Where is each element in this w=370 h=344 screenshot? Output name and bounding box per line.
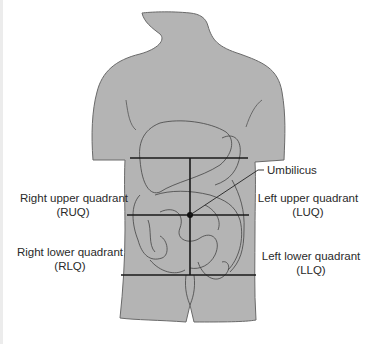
- luq-label: Left upper quadrant (LUQ): [248, 191, 368, 219]
- llq-name: Left lower quadrant: [258, 249, 364, 263]
- quadrant-diagram: Umbilicus Right upper quadrant (RUQ) Lef…: [0, 0, 370, 344]
- luq-name: Left upper quadrant: [248, 191, 368, 205]
- umbilicus-label: Umbilicus: [267, 163, 317, 177]
- ruq-label: Right upper quadrant (RUQ): [20, 191, 126, 219]
- ruq-abbr: (RUQ): [20, 205, 126, 219]
- umbilicus-text: Umbilicus: [267, 163, 317, 177]
- ruq-name: Right upper quadrant: [20, 191, 126, 205]
- luq-abbr: (LUQ): [248, 205, 368, 219]
- rlq-abbr: (RLQ): [14, 259, 126, 273]
- llq-abbr: (LLQ): [258, 263, 364, 277]
- rlq-label: Right lower quadrant (RLQ): [14, 245, 126, 273]
- rlq-name: Right lower quadrant: [14, 245, 126, 259]
- llq-label: Left lower quadrant (LLQ): [258, 249, 364, 277]
